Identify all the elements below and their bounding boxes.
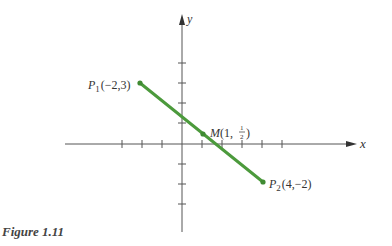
point-p2-label: P2(4,−2) <box>268 177 312 193</box>
point-p1 <box>137 80 142 85</box>
point-m-frac-num: 1 <box>240 124 244 132</box>
point-m <box>200 131 205 136</box>
point-m-label-close: ) <box>246 126 250 140</box>
point-p1-label: P1(−2,3) <box>87 78 131 94</box>
y-axis-arrow-icon <box>179 14 185 25</box>
point-m-label: M(1, <box>209 126 233 140</box>
y-axis-label: y <box>186 12 193 26</box>
point-p2 <box>260 179 265 184</box>
x-axis-arrow-icon <box>346 141 357 147</box>
point-m-frac-den: 2 <box>240 133 244 141</box>
figure-caption: Figure 1.11 <box>2 224 64 240</box>
x-axis-label: x <box>359 136 366 151</box>
coordinate-plane-figure: x y P1(−2,3) M(1, 1 2 ) P2(4, <box>0 0 392 246</box>
